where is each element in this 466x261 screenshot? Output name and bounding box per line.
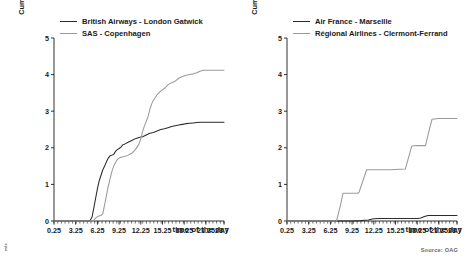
svg-text:12.25: 12.25 [365,226,383,235]
svg-text:6.25: 6.25 [323,226,337,235]
svg-text:5: 5 [45,34,49,43]
chart-panel-left: Cumulative sum of weighted indirect conn… [0,0,233,261]
chart-panel-right: Cumulative sum of weighted indirect conn… [233,0,466,261]
svg-text:1: 1 [45,180,49,189]
svg-text:0: 0 [278,217,282,226]
svg-text:2: 2 [278,143,282,152]
y-axis-label-line1: Cumulative sum of weighted indirect [250,0,259,15]
legend-item-sas[interactable]: SAS - Copenhagen [60,28,203,40]
svg-text:5: 5 [278,34,282,43]
legend-label: Air France - Marseille [315,16,392,28]
legend-right: Air France - Marseille Régional Airlines… [293,16,448,40]
plot-svg-right: 0123450.253.256.259.2512.2515.2518.2521.… [271,14,461,261]
svg-text:4: 4 [45,70,49,79]
legend-label: British Airways - London Gatwick [82,16,203,28]
source-note: Source: OAG [421,247,458,253]
svg-text:1: 1 [278,180,282,189]
legend-item-air-france[interactable]: Air France - Marseille [293,16,448,28]
svg-text:15.25: 15.25 [154,226,172,235]
legend-item-british-airways[interactable]: British Airways - London Gatwick [60,16,203,28]
svg-text:3.25: 3.25 [69,226,83,235]
plot-svg-left: 0123450.253.256.259.2512.2515.2518.2521.… [38,14,228,261]
svg-text:2: 2 [45,143,49,152]
y-axis-label-line2: connections (x 1,000) [259,0,268,15]
svg-text:4: 4 [278,70,282,79]
svg-text:9.25: 9.25 [112,226,126,235]
legend-swatch-icon [60,33,77,34]
svg-text:0.25: 0.25 [47,226,61,235]
svg-text:9.25: 9.25 [345,226,359,235]
svg-text:6.25: 6.25 [90,226,104,235]
svg-text:0: 0 [45,217,49,226]
plot-area-right: 0123450.253.256.259.2512.2515.2518.2521.… [271,14,461,261]
svg-text:0.25: 0.25 [280,226,294,235]
svg-text:3: 3 [278,107,282,116]
legend-swatch-icon [293,33,310,34]
y-axis-label-line1: Cumulative sum of weighted indirect [17,0,26,15]
legend-item-regional-airlines[interactable]: Régional Airlines - Clermont-Ferrand [293,28,448,40]
plot-area-left: 0123450.253.256.259.2512.2515.2518.2521.… [38,14,228,261]
svg-text:12.25: 12.25 [132,226,150,235]
legend-swatch-icon [293,21,310,22]
x-axis-label-right: time of the day [406,225,462,234]
x-axis-label-left: time of the day [173,225,229,234]
svg-text:15.25: 15.25 [387,226,405,235]
legend-label: SAS - Copenhagen [82,28,150,40]
legend-label: Régional Airlines - Clermont-Ferrand [315,28,448,40]
legend-left: British Airways - London Gatwick SAS - C… [60,16,203,40]
y-axis-label-line2: connections (x 1,000) [26,0,35,15]
svg-text:3.25: 3.25 [302,226,316,235]
legend-swatch-icon [60,21,77,22]
corner-mark: m/s [3,243,8,251]
svg-text:3: 3 [45,107,49,116]
figure-container: Cumulative sum of weighted indirect conn… [0,0,466,261]
